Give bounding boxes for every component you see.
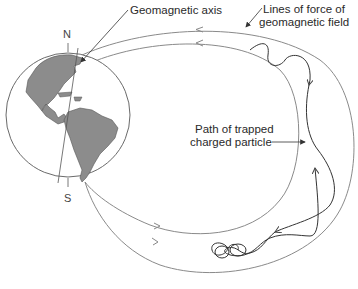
field-arrow-icon	[152, 238, 158, 245]
field-arrow-icon	[196, 40, 203, 46]
geomagnetic-axis-label: Geomagnetic axis	[130, 4, 222, 17]
particle-path-spiral	[225, 168, 319, 256]
lines-of-force-label-line1: Lines of force of	[263, 3, 345, 16]
north-pole-label: N	[63, 28, 71, 40]
particle-path-lower	[275, 85, 334, 232]
outer-field-line	[82, 31, 354, 272]
magnetosphere-diagram: Geomagnetic axis Lines of force of geoma…	[0, 0, 358, 289]
particle-loop	[215, 246, 229, 258]
axis-leader-line	[81, 10, 128, 62]
particle-path-label-line2: charged particle	[190, 136, 272, 149]
lines-of-force-label-line2: geomagnetic field	[259, 16, 349, 29]
diagram-canvas	[0, 0, 358, 289]
particle-path-label-line1: Path of trapped	[195, 123, 274, 136]
south-pole-label: S	[64, 192, 71, 204]
